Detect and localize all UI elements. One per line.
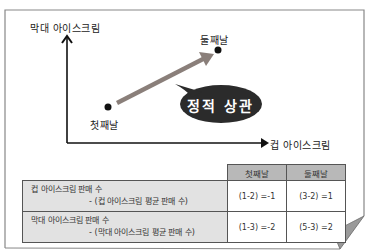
table-header-day1: 첫째날 bbox=[228, 165, 287, 181]
table-header-row: 첫째날 둘째날 bbox=[23, 165, 346, 181]
point-day1 bbox=[105, 104, 112, 111]
cell-bar-day1: (1-3) =-2 bbox=[228, 212, 287, 243]
bubble-text: 정적 상관 bbox=[187, 95, 254, 115]
row-label-line1: 컵 아이스크림 판매 수 bbox=[31, 185, 102, 194]
cell-bar-day2: (5-3) =2 bbox=[287, 212, 346, 243]
row-label-line2: - (컵 아이스크림 평균 판매 수) bbox=[31, 196, 227, 208]
row-label-cup: 컵 아이스크림 판매 수 - (컵 아이스크림 평균 판매 수) bbox=[23, 181, 228, 212]
point-day2-label: 둘째날 bbox=[200, 32, 229, 47]
x-axis-arrow-icon bbox=[261, 138, 269, 148]
row-label-line2: - (막대 아이스크림 평균 판매 수) bbox=[31, 227, 227, 239]
table-header-day2: 둘째날 bbox=[287, 165, 346, 181]
point-day2 bbox=[215, 47, 222, 54]
table-row: 컵 아이스크림 판매 수 - (컵 아이스크림 평균 판매 수) (1-2) =… bbox=[23, 181, 346, 212]
table-corner bbox=[23, 165, 228, 181]
point-day1-label: 첫째날 bbox=[90, 117, 119, 132]
row-label-line1: 막대 아이스크림 판매 수 bbox=[31, 216, 109, 225]
row-label-bar: 막대 아이스크림 판매 수 - (막대 아이스크림 평균 판매 수) bbox=[23, 212, 228, 243]
table-row: 막대 아이스크림 판매 수 - (막대 아이스크림 평균 판매 수) (1-3)… bbox=[23, 212, 346, 243]
y-axis-label: 막대 아이스크림 bbox=[30, 20, 100, 35]
x-axis-label: 컵 아이스크림 bbox=[270, 137, 331, 152]
deviation-table: 첫째날 둘째날 컵 아이스크림 판매 수 - (컵 아이스크림 평균 판매 수)… bbox=[22, 164, 346, 243]
cell-cup-day2: (3-2) =1 bbox=[287, 181, 346, 212]
cell-cup-day1: (1-2) =-1 bbox=[228, 181, 287, 212]
